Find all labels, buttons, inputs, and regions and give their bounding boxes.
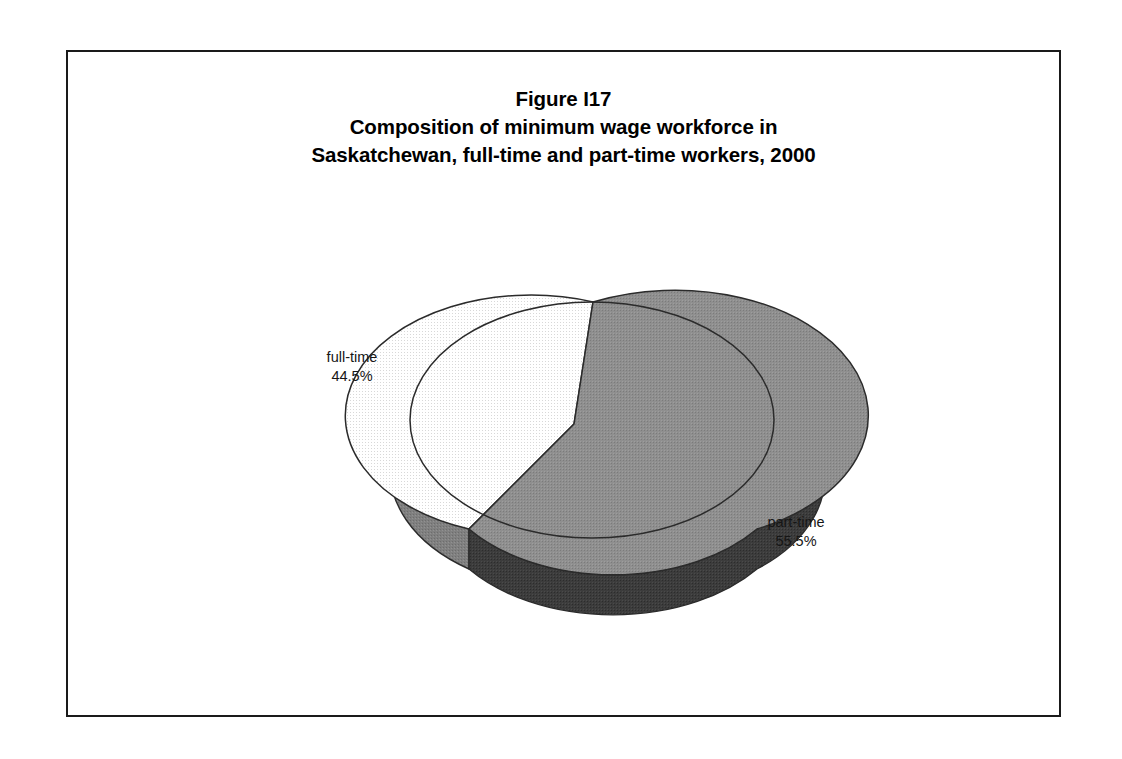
figure-frame: Figure I17 Composition of minimum wage w… <box>66 50 1061 717</box>
pie-chart-plot-area: full-time 44.5% part-time 55.5% <box>68 52 1059 715</box>
pie-label-full-time: full-time 44.5% <box>300 348 404 386</box>
pie-label-part-time: part-time 55.5% <box>744 513 848 551</box>
pie-label-full-time-name: full-time <box>300 348 404 367</box>
pie-label-full-time-value: 44.5% <box>300 367 404 386</box>
pie-label-part-time-value: 55.5% <box>744 532 848 551</box>
pie-chart-3d <box>68 52 1059 715</box>
pie-label-part-time-name: part-time <box>744 513 848 532</box>
